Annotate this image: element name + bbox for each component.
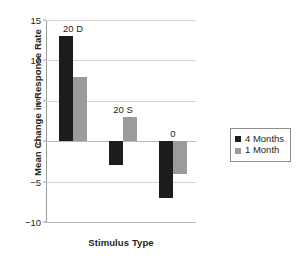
bar-chart-figure: Mean Change in Response Rate 151050−5−10…: [0, 0, 304, 260]
category-label: 20 D: [63, 23, 83, 34]
gridline: [46, 20, 196, 21]
y-tick-label: 5: [36, 95, 41, 106]
legend-label: 1 Month: [245, 145, 279, 155]
y-tick-label: 15: [30, 15, 41, 26]
y-tick-mark: [43, 100, 46, 101]
y-tick-mark: [43, 141, 46, 142]
y-tick-label: 0: [36, 136, 41, 147]
gridline: [46, 182, 196, 183]
y-tick-mark: [43, 60, 46, 61]
y-tick-mark: [43, 181, 46, 182]
bar: [159, 141, 173, 198]
legend-item: 4 Months: [235, 134, 284, 144]
chart-legend: 4 Months1 Month: [230, 128, 291, 162]
category-label: 20 S: [113, 104, 133, 115]
plot-area: 151050−5−10 20 D20 S0: [46, 20, 196, 222]
bar: [73, 77, 87, 142]
legend-item: 1 Month: [235, 145, 284, 155]
y-tick-label: −5: [30, 176, 41, 187]
legend-label: 4 Months: [245, 134, 284, 144]
y-axis-line: [46, 20, 47, 222]
category-label: 0: [170, 128, 175, 139]
legend-swatch-icon: [235, 136, 241, 142]
y-tick-label: −10: [25, 217, 41, 228]
y-tick-label: 10: [30, 55, 41, 66]
bar: [109, 141, 123, 165]
y-tick-mark: [43, 20, 46, 21]
bar: [59, 36, 73, 141]
bar: [123, 117, 137, 141]
y-tick-mark: [43, 222, 46, 223]
bar: [173, 141, 187, 173]
gridline: [46, 222, 196, 223]
x-axis-title: Stimulus Type: [46, 237, 196, 248]
legend-swatch-icon: [235, 148, 241, 154]
